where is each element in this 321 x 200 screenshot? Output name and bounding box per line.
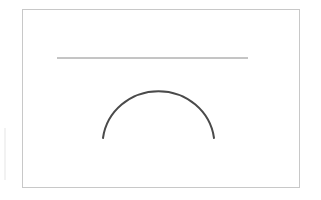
diagram-canvas (0, 0, 321, 200)
semicircle-arc (103, 91, 214, 138)
frame-border (23, 10, 300, 188)
